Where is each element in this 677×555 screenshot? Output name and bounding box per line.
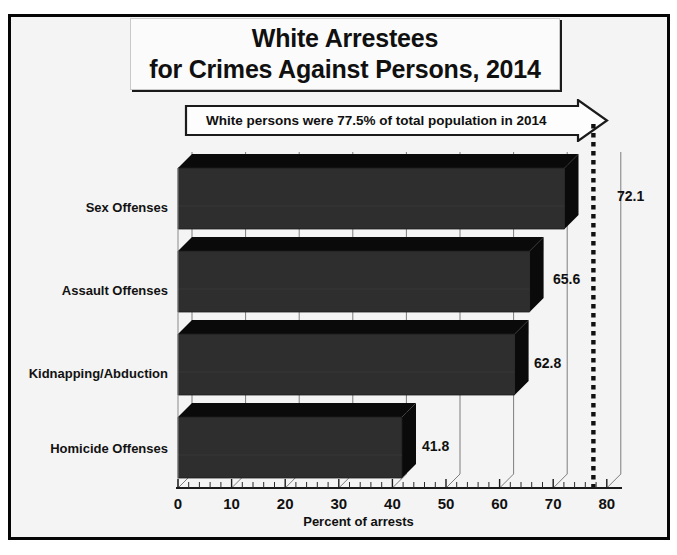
xtick-label-70: 70 [545,495,562,512]
value-label-kidnapping-abduction: 62.8 [534,355,561,371]
xtick-label-60: 60 [491,495,508,512]
value-label-sex-offenses: 72.1 [617,188,644,204]
bar-homicide-offenses [178,403,416,478]
bar-kidnapping-abduction [178,320,529,395]
plot-area: Sex Offenses Assault Offenses Kidnapping… [0,0,677,555]
xtick-label-30: 30 [330,495,347,512]
category-label-assault-offenses: Assault Offenses [62,283,168,298]
xtick-label-50: 50 [438,495,455,512]
xtick-label-80: 80 [598,495,615,512]
chart-root: White Arrestees for Crimes Against Perso… [0,0,677,555]
xtick-label-0: 0 [174,495,182,512]
x-axis-title-text: Percent of arrests [303,514,414,529]
category-label-homicide-offenses: Homicide Offenses [50,441,168,456]
bar-assault-offenses [178,237,544,312]
xtick-label-10: 10 [223,495,240,512]
value-label-assault-offenses: 65.6 [553,271,580,287]
value-label-homicide-offenses: 41.8 [422,438,449,454]
bar-sex-offenses [178,154,579,229]
xtick-label-20: 20 [277,495,294,512]
category-label-sex-offenses: Sex Offenses [86,200,168,215]
x-axis-title: Percent of arrests [0,514,677,529]
xtick-label-40: 40 [384,495,401,512]
category-label-kidnapping-abduction: Kidnapping/Abduction [29,366,168,381]
